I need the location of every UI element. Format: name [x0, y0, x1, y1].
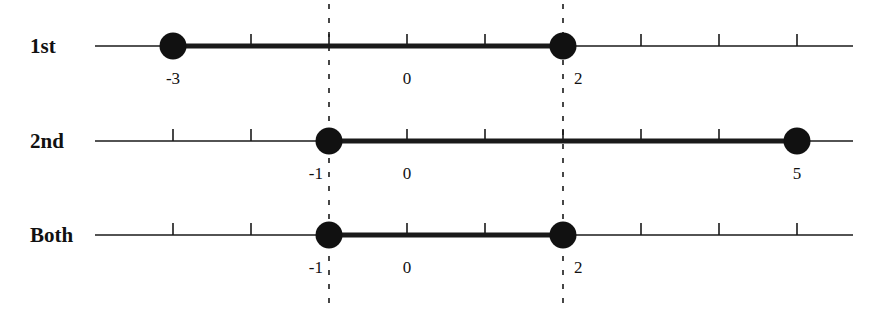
value-label: -1 [309, 164, 323, 183]
value-label: 0 [403, 164, 412, 183]
row-label: Both [30, 223, 74, 247]
dashed-guides [329, 4, 563, 312]
number-line-diagram: 1st-3022nd-105Both-102 [0, 0, 882, 323]
row-label: 1st [30, 34, 56, 58]
value-label: 5 [793, 164, 802, 183]
value-label: -3 [166, 69, 180, 88]
value-label: 2 [574, 69, 583, 88]
value-label: -1 [309, 258, 323, 277]
right-endpoint-dot [784, 128, 811, 155]
number-line-row-1st: 1st-302 [30, 33, 853, 89]
left-endpoint-dot [316, 128, 343, 155]
row-label: 2nd [30, 129, 64, 153]
right-endpoint-dot [550, 222, 577, 249]
left-endpoint-dot [160, 33, 187, 60]
value-label: 0 [403, 69, 412, 88]
number-line-row-2nd: 2nd-105 [30, 128, 853, 184]
number-line-rows: 1st-3022nd-105Both-102 [30, 33, 853, 278]
value-label: 0 [403, 258, 412, 277]
value-label: 2 [574, 258, 583, 277]
number-line-row-both: Both-102 [30, 222, 853, 278]
left-endpoint-dot [316, 222, 343, 249]
right-endpoint-dot [550, 33, 577, 60]
